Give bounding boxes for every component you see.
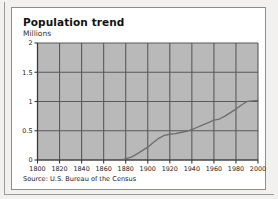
- page-bottom-rule: [4, 194, 274, 195]
- x-tick-label: 1940: [184, 165, 200, 173]
- x-tick-label: 1800: [29, 165, 45, 173]
- x-tick-label: 1920: [162, 165, 178, 173]
- x-tick-label: 1880: [118, 165, 134, 173]
- y-tick-label: 0.5: [22, 127, 32, 135]
- plot-area: 00.511.521800182018401860188019001920194…: [12, 8, 267, 191]
- chart-source-note: Source: U.S. Bureau of the Census: [23, 175, 136, 183]
- x-tick-label: 1980: [228, 165, 244, 173]
- x-tick-label: 1960: [206, 165, 222, 173]
- y-tick-label: 2: [28, 39, 32, 47]
- x-tick-label: 1860: [96, 165, 112, 173]
- x-tick-label: 1820: [51, 165, 67, 173]
- page-left-rule: [4, 2, 5, 194]
- y-tick-label: 0: [28, 156, 32, 164]
- x-tick-label: 1840: [73, 165, 89, 173]
- y-tick-label: 1: [28, 98, 32, 106]
- x-tick-label: 2000: [250, 165, 266, 173]
- line-chart: 00.511.521800182018401860188019001920194…: [12, 8, 267, 191]
- page-background: Population trend Millions 00.511.5218001…: [0, 0, 278, 199]
- x-tick-label: 1900: [140, 165, 156, 173]
- y-tick-label: 1.5: [22, 69, 32, 77]
- chart-card: Population trend Millions 00.511.5218001…: [11, 7, 266, 190]
